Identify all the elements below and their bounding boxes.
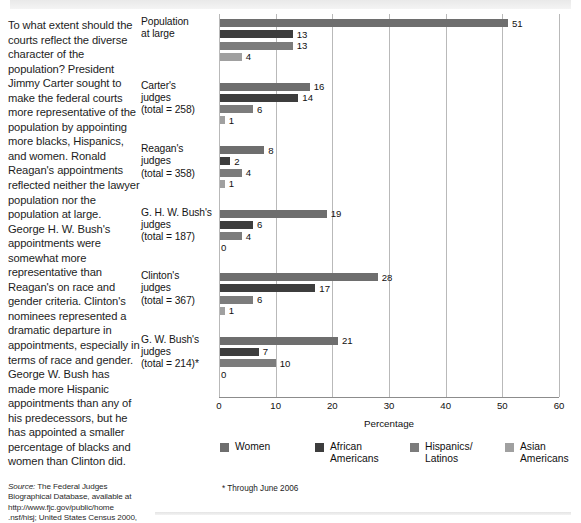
bar xyxy=(220,210,327,218)
bar xyxy=(220,180,225,188)
narrative-body: To what extent should the courts reflect… xyxy=(8,18,140,469)
bar xyxy=(220,19,508,27)
legend-swatch xyxy=(505,443,514,452)
bar xyxy=(220,232,242,240)
category-label: G. W. Bush's judges (total = 214)* xyxy=(141,334,217,371)
category-label: Population at large xyxy=(141,16,217,41)
x-tick-label: 20 xyxy=(327,400,338,411)
bar-value-label: 0 xyxy=(221,370,226,380)
legend-label: Women xyxy=(235,441,270,453)
category-label: G. H. W. Bush's judges (total = 187) xyxy=(141,207,217,244)
bar-value-label: 4 xyxy=(246,232,251,242)
chart-legend: WomenAfrican AmericansHispanics/ Latinos… xyxy=(220,441,575,481)
bar-value-label: 17 xyxy=(319,284,330,294)
gridline-50 xyxy=(502,14,503,397)
bar-value-label: 0 xyxy=(221,243,226,253)
bar-value-label: 19 xyxy=(331,209,342,219)
legend-label: Hispanics/ Latinos xyxy=(425,441,473,465)
bar xyxy=(220,221,253,229)
source-note: Source: The Federal Judges Biographical … xyxy=(8,482,140,523)
category-label: Carter's judges (total = 258) xyxy=(141,80,217,117)
bar xyxy=(220,296,253,304)
bar-value-label: 7 xyxy=(263,347,268,357)
bar-value-label: 28 xyxy=(382,273,393,283)
x-tick-label: 30 xyxy=(384,400,395,411)
bar-value-label: 6 xyxy=(257,105,262,115)
bar xyxy=(220,359,276,367)
bar-value-label: 2 xyxy=(234,157,239,167)
x-axis-title: Percentage xyxy=(219,418,559,429)
narrative-column: To what extent should the courts reflect… xyxy=(8,18,140,523)
bar-value-label: 4 xyxy=(246,168,251,178)
bar-value-label: 1 xyxy=(229,116,234,126)
legend-label: African Americans xyxy=(330,441,379,465)
top-decorative-band xyxy=(10,0,571,9)
bar xyxy=(220,83,310,91)
x-tick-label: 10 xyxy=(270,400,281,411)
bar-value-label: 6 xyxy=(257,295,262,305)
category-axis-labels: Population at largeCarter's judges (tota… xyxy=(141,14,215,397)
bar xyxy=(220,157,230,165)
x-axis-baseline xyxy=(219,397,559,398)
bottom-divider-rule xyxy=(155,512,571,515)
category-label: Reagan's judges (total = 358) xyxy=(141,143,217,180)
legend-swatch xyxy=(315,443,324,452)
bar-value-label: 1 xyxy=(229,306,234,316)
bar-value-label: 10 xyxy=(280,359,291,369)
bar-value-label: 16 xyxy=(314,82,325,92)
x-tick-label: 50 xyxy=(497,400,508,411)
bar xyxy=(220,348,259,356)
category-label: Clinton's judges (total = 367) xyxy=(141,270,217,307)
source-label: Source: xyxy=(8,482,35,491)
bar xyxy=(220,42,293,50)
bar-value-label: 13 xyxy=(297,30,308,40)
x-tick-label: 40 xyxy=(440,400,451,411)
chart-footnote: * Through June 2006 xyxy=(222,484,298,493)
bar-value-label: 1 xyxy=(229,179,234,189)
bar xyxy=(220,146,264,154)
x-tick-label: 0 xyxy=(216,400,221,411)
bar-value-label: 13 xyxy=(297,41,308,51)
bar-value-label: 8 xyxy=(268,146,273,156)
bar xyxy=(220,30,293,38)
gridline-60 xyxy=(559,14,560,397)
bar xyxy=(220,307,225,315)
bar-value-label: 51 xyxy=(512,19,523,29)
bar xyxy=(220,169,242,177)
bar-value-label: 21 xyxy=(342,336,353,346)
gridline-40 xyxy=(446,14,447,397)
x-tick-label: 60 xyxy=(554,400,565,411)
bar xyxy=(220,337,338,345)
bar-value-label: 4 xyxy=(246,52,251,62)
bar xyxy=(220,94,298,102)
legend-swatch xyxy=(410,443,419,452)
bar xyxy=(220,273,378,281)
legend-swatch xyxy=(220,443,229,452)
bar xyxy=(220,53,242,61)
bar xyxy=(220,105,253,113)
bar xyxy=(220,284,315,292)
bar-value-label: 6 xyxy=(257,220,262,230)
legend-label: Asian Americans xyxy=(520,441,569,465)
bar-value-label: 14 xyxy=(302,93,313,103)
bar xyxy=(220,116,225,124)
bar-chart: Population at largeCarter's judges (tota… xyxy=(141,14,575,414)
plot-area: 5113134161461824119640281761217100 xyxy=(219,14,559,397)
gridline-30 xyxy=(389,14,390,397)
